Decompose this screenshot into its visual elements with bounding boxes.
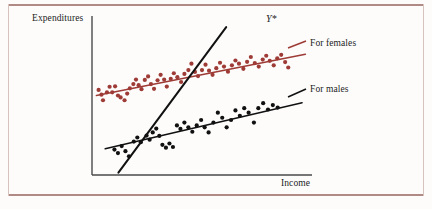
- data-point: [286, 65, 290, 69]
- legend-line-males: [288, 89, 306, 97]
- data-point: [112, 147, 116, 151]
- data-point: [131, 82, 135, 86]
- scatter-plot-svg: [0, 0, 432, 209]
- data-point: [190, 130, 194, 134]
- data-point: [222, 64, 226, 68]
- data-point: [122, 98, 126, 102]
- data-point: [182, 72, 186, 76]
- data-point: [237, 62, 241, 66]
- data-point: [279, 53, 283, 57]
- data-point: [179, 80, 183, 84]
- data-point: [218, 61, 222, 65]
- data-point: [135, 135, 139, 139]
- data-point: [261, 101, 265, 105]
- data-point: [152, 87, 156, 91]
- data-point: [116, 151, 120, 155]
- legend-line-females: [288, 41, 306, 48]
- data-point: [113, 84, 117, 88]
- data-point: [143, 78, 147, 82]
- data-point: [175, 123, 179, 127]
- female-data-points: [97, 53, 291, 103]
- data-point: [119, 95, 123, 99]
- data-point: [252, 120, 256, 124]
- data-point: [230, 63, 234, 67]
- legend-label-males: For males: [310, 84, 349, 94]
- data-point: [242, 106, 246, 110]
- data-point: [257, 64, 261, 68]
- data-point: [134, 78, 138, 82]
- data-point: [123, 149, 127, 153]
- data-point: [261, 57, 265, 61]
- data-point: [199, 118, 203, 122]
- data-point: [164, 146, 168, 150]
- data-point: [264, 54, 268, 58]
- regression-lines: [96, 27, 305, 172]
- data-point: [203, 63, 207, 67]
- data-point: [233, 108, 237, 112]
- figure-panel: Expenditures Income For females For male…: [0, 0, 432, 209]
- male-data-points: [112, 101, 279, 158]
- data-point: [256, 106, 260, 110]
- data-point: [172, 71, 176, 75]
- data-point: [108, 85, 112, 89]
- data-point: [101, 98, 105, 102]
- data-point: [189, 62, 193, 66]
- data-point: [220, 116, 224, 120]
- data-point: [159, 73, 163, 77]
- data-point: [155, 78, 159, 82]
- pooled-line-label: Y*: [266, 13, 277, 24]
- data-point: [182, 120, 186, 124]
- data-point: [225, 125, 229, 129]
- data-point: [167, 141, 171, 145]
- data-point: [216, 111, 220, 115]
- legend-connector-lines: [288, 41, 306, 97]
- data-point: [233, 58, 237, 62]
- data-point: [151, 130, 155, 134]
- data-point: [271, 103, 275, 107]
- data-point: [171, 145, 175, 149]
- regression-line-for-males: [105, 103, 302, 149]
- data-point: [165, 85, 169, 89]
- data-point: [272, 63, 276, 67]
- data-point: [245, 60, 249, 64]
- data-point: [139, 87, 143, 91]
- legend-label-females: For females: [310, 38, 356, 48]
- data-point: [146, 74, 150, 78]
- data-point: [200, 68, 204, 72]
- x-axis-label: Income: [281, 178, 310, 188]
- data-point: [160, 143, 164, 147]
- regression-line-y: [118, 27, 226, 172]
- data-point: [207, 130, 211, 134]
- y-axis-label: Expenditures: [32, 13, 83, 23]
- data-point: [249, 55, 253, 59]
- data-point: [125, 91, 129, 95]
- data-point: [186, 68, 190, 72]
- data-point: [97, 88, 101, 92]
- data-point: [214, 66, 218, 70]
- data-point: [283, 60, 287, 64]
- data-point: [154, 126, 158, 130]
